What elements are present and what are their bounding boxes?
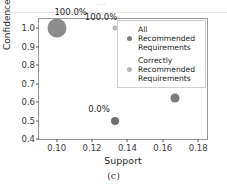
data-point <box>111 117 119 125</box>
y-tick-mark <box>36 102 39 103</box>
x-tick-mark <box>56 139 57 142</box>
y-tick-mark <box>36 139 39 140</box>
y-tick-mark <box>36 65 39 66</box>
figure-subcaption: (c) <box>0 170 227 181</box>
x-tick-label: 0.10 <box>47 143 66 153</box>
chart-legend: AllRecommendedRequirementsCorrectlyRecom… <box>117 20 206 88</box>
x-tick-mark <box>198 139 199 142</box>
y-tick-label: 0.4 <box>21 134 35 144</box>
legend-label: AllRecommendedRequirements <box>138 25 195 53</box>
y-tick-mark <box>36 120 39 121</box>
legend-marker-icon <box>127 67 132 72</box>
x-tick-mark <box>162 139 163 142</box>
scatter-figure: ... Confidence 0.40.50.60.70.80.91.00.10… <box>0 0 227 186</box>
data-point-label: 0.0% <box>88 104 110 114</box>
legend-marker-icon <box>127 36 132 41</box>
x-tick-mark <box>92 139 93 142</box>
y-tick-label: 1.0 <box>21 23 35 33</box>
y-tick-mark <box>36 28 39 29</box>
top-caption-artifact: ... <box>88 0 114 7</box>
legend-label: CorrectlyRecommendedRequirements <box>138 56 195 84</box>
y-tick-label: 0.5 <box>21 116 35 126</box>
y-tick-label: 0.8 <box>21 60 35 70</box>
y-tick-mark <box>36 46 39 47</box>
legend-marker-cell <box>121 67 138 72</box>
x-tick-label: 0.18 <box>189 143 208 153</box>
y-tick-label: 0.6 <box>21 97 35 107</box>
legend-entry: AllRecommendedRequirements <box>121 25 202 53</box>
legend-marker-cell <box>121 36 138 41</box>
data-point-label: 100.0% <box>54 7 86 17</box>
x-tick-label: 0.12 <box>83 143 102 153</box>
x-tick-label: 0.16 <box>153 143 172 153</box>
x-tick-mark <box>127 139 128 142</box>
x-axis-label: Support <box>38 155 208 166</box>
y-tick-label: 0.9 <box>21 42 35 52</box>
legend-entry: CorrectlyRecommendedRequirements <box>121 56 202 84</box>
x-tick-label: 0.14 <box>118 143 137 153</box>
y-tick-label: 0.7 <box>21 79 35 89</box>
data-point <box>171 94 180 103</box>
data-point <box>47 19 66 38</box>
data-point-label: 100.0% <box>85 12 117 22</box>
y-axis-label: Confidence <box>2 0 12 50</box>
y-tick-mark <box>36 83 39 84</box>
